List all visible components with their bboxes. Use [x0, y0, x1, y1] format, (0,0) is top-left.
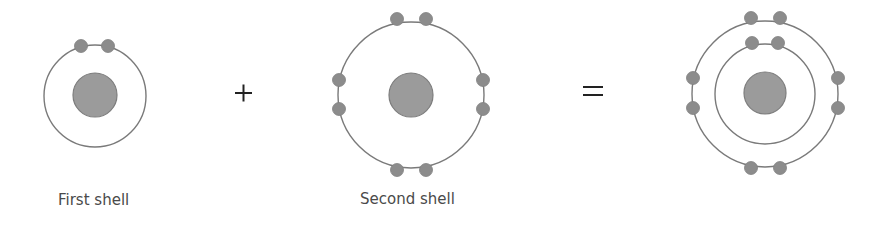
- electron: [333, 103, 346, 116]
- first-shell-atom: [44, 40, 146, 148]
- first-shell-label: First shell: [58, 191, 129, 209]
- plus-operator-icon: [235, 85, 252, 102]
- electron: [333, 74, 346, 87]
- second-shell-label: Second shell: [360, 190, 455, 208]
- electron: [745, 162, 758, 175]
- electron: [687, 102, 700, 115]
- nucleus: [389, 73, 433, 117]
- electron: [391, 164, 404, 177]
- nucleus: [73, 73, 117, 117]
- electron: [832, 102, 845, 115]
- electron: [772, 37, 785, 50]
- electron: [391, 13, 404, 26]
- electron: [774, 162, 787, 175]
- nucleus: [744, 72, 786, 114]
- combined-atom: [687, 12, 845, 175]
- electron: [746, 37, 759, 50]
- electron: [75, 40, 88, 53]
- electron: [832, 72, 845, 85]
- electron: [774, 12, 787, 25]
- equals-operator-icon: [583, 87, 603, 95]
- electron: [477, 103, 490, 116]
- electron: [687, 72, 700, 85]
- electron: [420, 13, 433, 26]
- electron: [420, 164, 433, 177]
- second-shell-atom: [333, 13, 490, 177]
- electron: [477, 74, 490, 87]
- electron: [745, 12, 758, 25]
- electron: [102, 40, 115, 53]
